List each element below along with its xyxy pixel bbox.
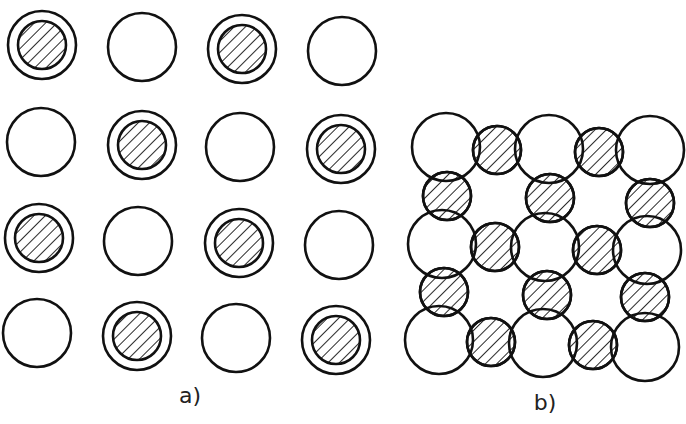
hatched-atom	[118, 121, 166, 169]
hatched-atom	[215, 219, 263, 267]
lattice-diagram: a) b)	[0, 0, 686, 424]
hatched-atom	[15, 214, 63, 262]
hatched-atom	[317, 125, 365, 173]
panel-b-label: b)	[534, 390, 557, 415]
hatched-atom	[312, 316, 360, 364]
hatched-atom	[113, 312, 161, 360]
hatched-atom	[18, 21, 66, 69]
panel-a-label: a)	[179, 383, 201, 408]
hatched-atom	[218, 25, 266, 73]
